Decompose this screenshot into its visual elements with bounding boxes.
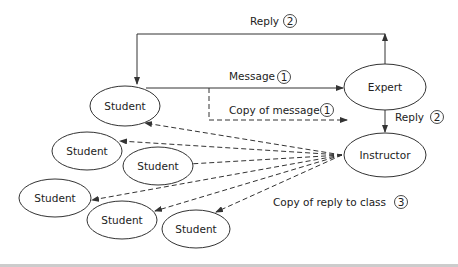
node-label: Student [104, 100, 145, 112]
reply-top-step: 2 [287, 15, 294, 27]
node-label: Instructor [360, 149, 412, 161]
node-student: Student [52, 132, 122, 170]
reply-top-label: Reply [250, 15, 279, 27]
node-label: Student [66, 145, 107, 157]
node-student: Student [87, 201, 157, 239]
reply-right-step: 2 [434, 111, 441, 123]
node-label: Student [101, 214, 142, 226]
node-label: Student [34, 192, 75, 204]
node-label: Student [175, 223, 216, 235]
message-step: 1 [281, 71, 288, 83]
node-student: Student [19, 179, 91, 217]
message-label: Message [229, 70, 275, 82]
node-expert: Expert [344, 64, 426, 110]
copy-message-step: 1 [324, 104, 331, 116]
diagram-canvas: Reply 2 Message 1 Copy of message 1 Repl… [0, 0, 458, 267]
node-student: Student [162, 210, 230, 248]
copy-message-label: Copy of message [229, 104, 320, 116]
reply-right-label: Reply [395, 111, 424, 123]
copy-reply-step: 3 [398, 196, 405, 208]
node-label: Expert [368, 81, 402, 93]
edge-reply-right: Reply 2 [385, 110, 444, 132]
node-student: Student [123, 147, 193, 185]
node-student-main: Student [90, 86, 160, 126]
edge-message: Message 1 [146, 70, 343, 88]
edge-copy-of-message: Copy of message 1 [209, 88, 347, 120]
node-instructor: Instructor [344, 133, 426, 177]
node-label: Student [137, 160, 178, 172]
copy-reply-label: Copy of reply to class [273, 196, 386, 208]
